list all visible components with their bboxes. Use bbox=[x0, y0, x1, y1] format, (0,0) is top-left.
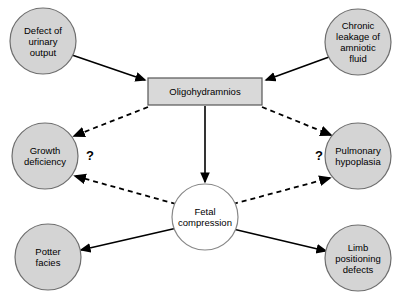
edge-oligohydramnios-to-growth-deficiency bbox=[74, 107, 148, 136]
question-mark-left: ? bbox=[86, 148, 94, 163]
node-shape-potter-facies bbox=[15, 224, 81, 290]
node-shape-fetal-compression bbox=[172, 184, 238, 250]
node-shape-limb-positioning-defects bbox=[325, 225, 391, 291]
question-mark-right: ? bbox=[315, 148, 323, 163]
node-shape-pulmonary-hypoplasia bbox=[325, 123, 391, 189]
edge-fetal-compression-to-limb-positioning-defects bbox=[233, 229, 326, 251]
edge-defect-to-oligohydramnios bbox=[72, 55, 145, 80]
node-shape-chronic-leakage-of-amniotic-fluid bbox=[325, 9, 391, 75]
diagram-canvas bbox=[0, 0, 402, 300]
edge-fetal-compression-to-growth-deficiency bbox=[75, 176, 176, 204]
edge-oligohydramnios-to-pulmonary-hypoplasia bbox=[262, 107, 331, 135]
edge-leakage-to-oligohydramnios bbox=[266, 57, 329, 80]
node-shape-defect-of-urinary-output bbox=[10, 8, 76, 74]
oligohydramnios-sequence-diagram: Defect of urinary outputChronic leakage … bbox=[0, 0, 402, 300]
edge-fetal-compression-to-pulmonary-hypoplasia bbox=[233, 178, 330, 204]
nodes-layer bbox=[10, 8, 391, 291]
node-shape-growth-deficiency bbox=[12, 123, 78, 189]
edge-fetal-compression-to-potter-facies bbox=[81, 228, 177, 250]
node-shape-oligohydramnios bbox=[148, 78, 262, 105]
